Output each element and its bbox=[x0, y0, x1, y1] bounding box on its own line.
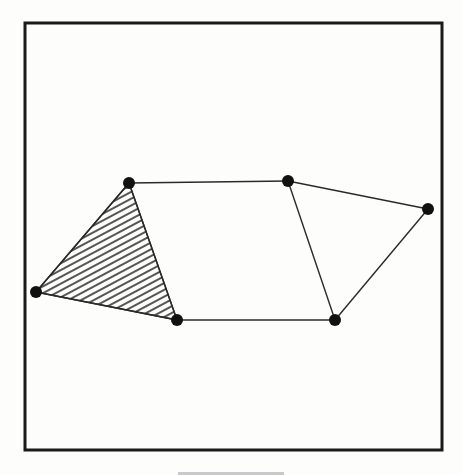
vertex-v6 bbox=[329, 314, 341, 326]
edge-v1-v4 bbox=[129, 181, 288, 183]
vertex-v2 bbox=[30, 286, 42, 298]
edge-v4-v5 bbox=[288, 181, 428, 209]
face-right-triangle bbox=[288, 181, 428, 320]
vertex-v3 bbox=[171, 314, 183, 326]
edge-v4-v6 bbox=[288, 181, 335, 320]
vertex-v5 bbox=[422, 203, 434, 215]
faces-layer bbox=[36, 181, 428, 320]
edge-v5-v6 bbox=[335, 209, 428, 320]
face-left-triangle bbox=[36, 183, 177, 320]
vertex-v4 bbox=[282, 175, 294, 187]
graph-diagram bbox=[0, 0, 462, 475]
vertex-v1 bbox=[123, 177, 135, 189]
